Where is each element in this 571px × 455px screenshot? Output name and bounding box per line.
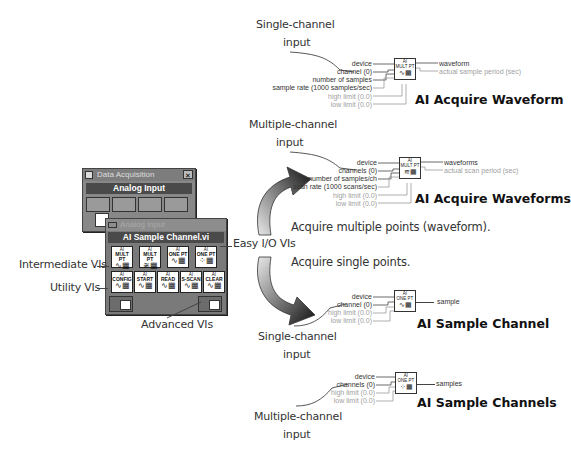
terminal-number-of-samples-per-channel: number of samples/ch [308, 175, 377, 183]
waveform-glyph-icon: ∿▦ [158, 282, 178, 290]
output-wire [416, 302, 434, 303]
window-title: Data Acquisition [97, 170, 154, 179]
easy-io-leader-line [220, 246, 232, 247]
waveform-glyph-icon [120, 300, 131, 310]
output-wires [416, 60, 440, 74]
window-title: Analog Input [120, 220, 165, 229]
diagram-title: AI Acquire Waveform [415, 92, 564, 107]
diagram-title: AI Sample Channel [417, 316, 549, 331]
advanced-leader-line [165, 300, 205, 320]
input-note-line2: input [283, 348, 310, 361]
terminal-actual-sample-period: actual sample period (sec) [439, 68, 521, 76]
terminal-channels: channels (0) [338, 167, 377, 175]
ai-start-icon[interactable]: AI START ∿▦ [134, 271, 156, 293]
subpalette-icon-row [86, 197, 192, 211]
subpalette-icon[interactable] [112, 197, 136, 212]
input-note-line1: Multiple-channel [254, 410, 342, 423]
terminal-device: device [355, 373, 375, 381]
single-point-glyph-icon: ∿▦ [168, 257, 188, 265]
multi-waveform-glyph-icon: ≋▦ [140, 262, 160, 270]
terminal-device: device [357, 159, 377, 167]
vi-name-header: AI Sample Channel.vi [108, 232, 224, 243]
terminal-high-limit: high limit (0.0) [328, 93, 372, 101]
terminal-channel: channel (0) [337, 68, 372, 76]
single-point-glyph-icon: ∿▦ [395, 301, 415, 309]
pushpin-icon[interactable] [108, 222, 117, 228]
intermediate-leader-line [97, 266, 109, 267]
ai-sample-channel-icon[interactable]: AI ONE PT ∿▦ [167, 246, 189, 268]
terminal-scan-rate: scan rate (1000 scans/sec) [293, 183, 377, 191]
ai-sample-channels-icon[interactable]: AI ONE PT ⁘▦ [195, 246, 217, 268]
waveform-glyph-icon [209, 300, 220, 310]
multi-point-glyph-icon: ⁘▦ [396, 383, 416, 391]
ai-clear-icon[interactable]: AI CLEAR ∿▦ [203, 271, 225, 293]
ai-acquire-waveform-icon[interactable]: AI MULT PT ∿▦ [111, 246, 133, 268]
terminal-device: device [352, 293, 372, 301]
waveform-glyph-icon: ∿▦ [112, 282, 132, 290]
acquire-single-caption: Acquire single points. [291, 255, 410, 269]
waveform-glyph-icon: ∿▦ [135, 282, 155, 290]
subpalette-icon[interactable] [138, 197, 162, 212]
ai-acquire-waveforms-vi-icon[interactable]: AI MULT PT ≋▦ [399, 157, 421, 179]
intermediate-vis-label: Intermediate VIs [19, 258, 107, 271]
diagram-title: AI Acquire Waveforms [415, 191, 571, 206]
subpalette-icon[interactable] [164, 197, 188, 212]
terminal-sample-rate: sample rate (1000 samples/sec) [272, 84, 372, 92]
acquire-multiple-caption: Acquire multiple points (waveform). [291, 220, 490, 234]
waveform-glyph-icon: ∿▦ [112, 262, 132, 270]
subpalette-icon[interactable] [86, 197, 110, 212]
ai-config-icon[interactable]: AI CONFIG ∿▦ [111, 271, 133, 293]
multi-point-glyph-icon: ⁘▦ [196, 257, 216, 265]
multi-waveform-glyph-icon: ≋▦ [400, 168, 420, 176]
waveform-glyph-icon: ∿▦ [204, 282, 224, 290]
analog-input-titlebar[interactable]: Analog Input [106, 219, 226, 231]
diagram-title: AI Sample Channels [417, 395, 557, 410]
ai-single-scan-icon[interactable]: AI S-SCAN ∿▦ [180, 271, 202, 293]
waveform-glyph-icon: ∿▦ [395, 69, 415, 77]
terminal-low-limit: low limit (0.0) [336, 200, 377, 208]
ai-acquire-waveform-vi-icon[interactable]: AI MULT PT ∿▦ [394, 58, 416, 80]
terminal-samples: samples [436, 380, 462, 388]
terminal-actual-scan-period: actual scan period (sec) [444, 167, 518, 175]
input-note-pointer [292, 382, 352, 408]
ai-sample-channels-vi-icon[interactable]: AI ONE PT ⁘▦ [395, 372, 417, 394]
utility-leader-line [97, 288, 108, 289]
terminal-device: device [352, 60, 372, 68]
ai-acquire-waveforms-icon[interactable]: AI MULT PT ≋▦ [139, 246, 161, 268]
output-wires [421, 159, 445, 173]
input-note-line1: Multiple-channel [249, 118, 337, 131]
output-wire [417, 384, 435, 385]
ai-read-icon[interactable]: AI READ ∿▦ [157, 271, 179, 293]
palette-menu-icon[interactable] [85, 171, 93, 179]
input-note-line2: input [283, 428, 310, 441]
input-note-line1: Single-channel [258, 330, 337, 343]
terminal-high-limit: high limit (0.0) [333, 192, 377, 200]
input-note-line1: Single-channel [256, 18, 335, 31]
terminal-waveforms: waveforms [444, 159, 478, 167]
analog-input-header: Analog Input [86, 183, 192, 194]
ai-sample-channel-vi-icon[interactable]: AI ONE PT ∿▦ [394, 290, 416, 312]
terminal-sample: sample [437, 298, 460, 306]
utility-vis-label: Utility VIs [50, 281, 100, 294]
terminal-low-limit: low limit (0.0) [331, 101, 372, 109]
waveform-glyph-icon: ∿▦ [181, 282, 201, 290]
terminal-waveform: waveform [439, 60, 469, 68]
close-button[interactable]: ✕ [183, 170, 193, 179]
terminal-number-of-samples: number of samples [312, 76, 372, 84]
data-acquisition-titlebar[interactable]: Data Acquisition ✕ [83, 169, 195, 181]
utility-vis-subpalette[interactable] [109, 296, 133, 312]
input-note-pointer [290, 302, 350, 328]
